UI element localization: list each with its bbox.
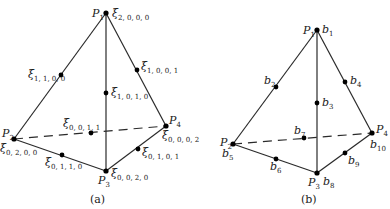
point-xi-1001 <box>135 68 140 73</box>
label-xi-0020: ξ0, 0, 2, 0 <box>111 167 148 182</box>
label-xi-1010: ξ1, 0, 1, 0 <box>111 86 148 101</box>
label-xi-top: ξ2, 0, 0, 0 <box>112 7 149 22</box>
point-xi-0110 <box>60 153 65 158</box>
label-b9: b9 <box>348 154 360 169</box>
point-b8 <box>314 170 319 175</box>
label-b8: b8 <box>323 175 335 190</box>
label-p4: P4 <box>168 114 181 129</box>
label-p1: P1 <box>302 24 315 39</box>
label-p1: P1 <box>91 7 104 22</box>
label-xi-0110: ξ0, 1, 1, 0 <box>45 156 82 171</box>
label-xi-1100: ξ1, 1, 0, 0 <box>28 68 65 83</box>
point-p1 <box>103 10 108 15</box>
figure-a-labels: P1 ξ2, 0, 0, 0 ξ1, 1, 0, 0 ξ1, 0, 0, 1 ξ… <box>0 7 199 206</box>
caption-b: (b) <box>301 193 317 206</box>
label-b7: b7 <box>294 124 306 139</box>
label-b2: b2 <box>264 74 276 89</box>
point-p3 <box>103 168 108 173</box>
point-xi-1010 <box>104 91 109 96</box>
label-xi-0101: ξ0, 1, 0, 1 <box>142 146 179 161</box>
figure-b <box>233 30 372 173</box>
point-b3 <box>315 101 320 106</box>
point-b10 <box>369 130 374 135</box>
label-xi-0011: ξ0, 0, 1, 1 <box>63 117 100 132</box>
label-xi-0002: ξ0, 0, 0, 2 <box>162 129 199 144</box>
tetrahedron-diagrams: P1 ξ2, 0, 0, 0 ξ1, 1, 0, 0 ξ1, 0, 0, 1 ξ… <box>0 0 390 209</box>
label-p3: P3 <box>307 176 320 191</box>
point-b9 <box>343 151 348 156</box>
point-b1 <box>314 27 319 32</box>
label-xi-1001: ξ1, 0, 0, 1 <box>141 60 178 75</box>
point-p4 <box>163 123 168 128</box>
figure-b-labels: P1 b1 b2 b3 b4 P2 b5 b7 b6 P3 b8 b9 P4 b… <box>219 23 388 206</box>
label-xi-0200: ξ0, 2, 0, 0 <box>0 142 37 157</box>
label-p4: P4 <box>375 123 388 138</box>
point-xi-0101 <box>136 147 141 152</box>
label-b6: b6 <box>270 160 282 175</box>
label-p2: P2 <box>1 127 14 142</box>
label-b10: b10 <box>370 138 386 153</box>
point-b4 <box>343 80 348 85</box>
label-b3: b3 <box>322 96 334 111</box>
label-p3: P3 <box>97 174 110 189</box>
caption-a: (a) <box>90 193 105 206</box>
label-b1: b1 <box>322 23 334 38</box>
label-b4: b4 <box>350 74 362 89</box>
